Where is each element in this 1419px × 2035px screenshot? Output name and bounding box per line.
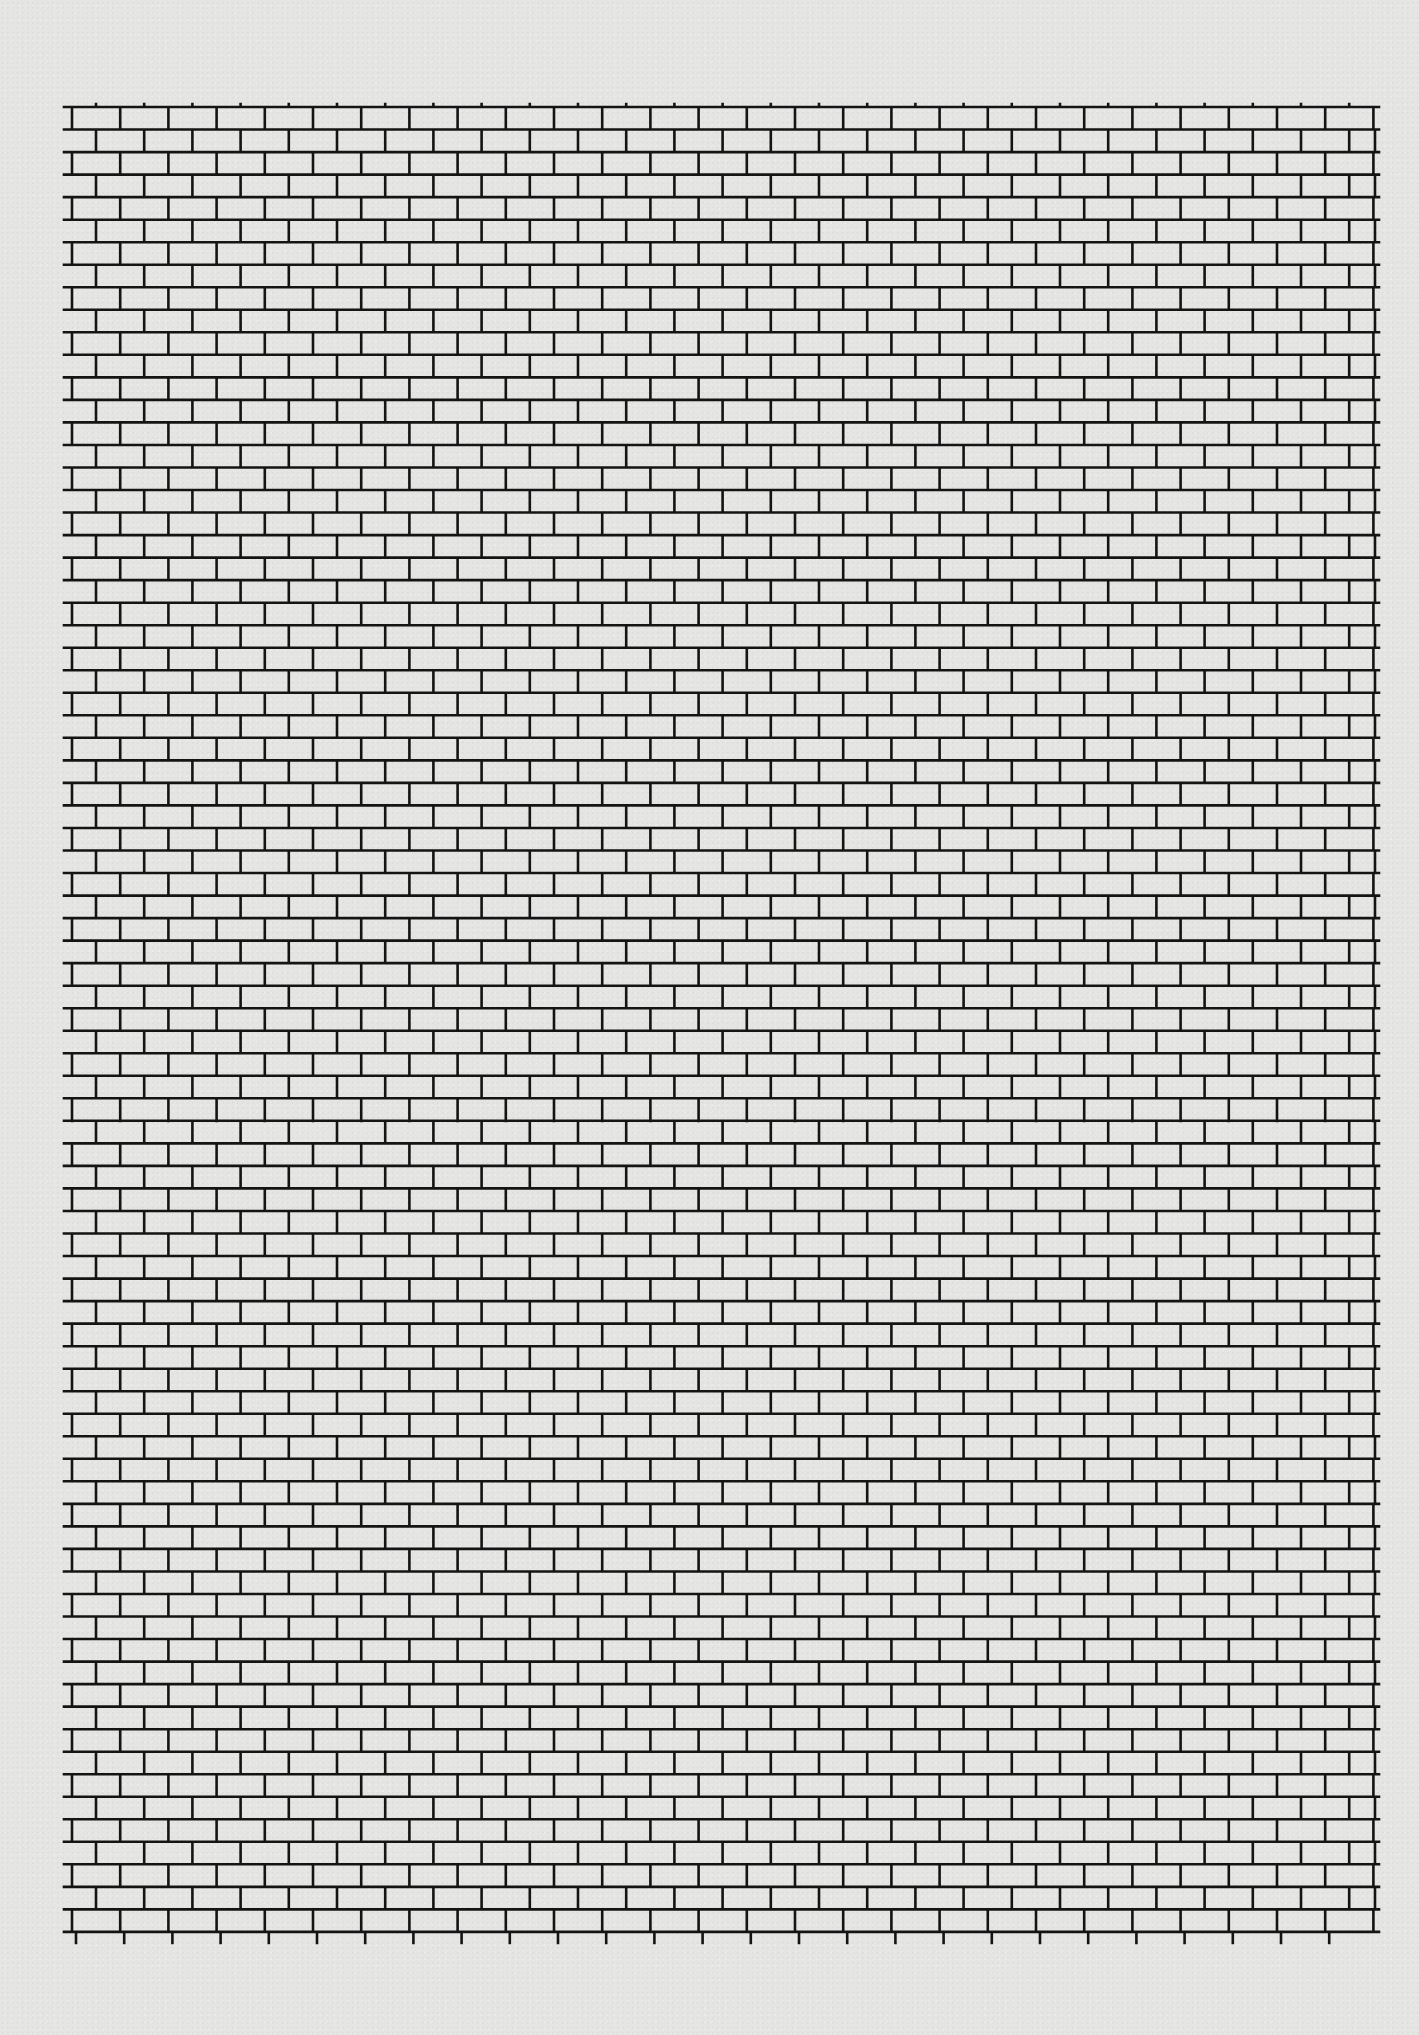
- brick-grid: [0, 0, 1419, 2035]
- graph-paper-page: [0, 0, 1419, 2035]
- brick-lines: [64, 104, 1379, 1943]
